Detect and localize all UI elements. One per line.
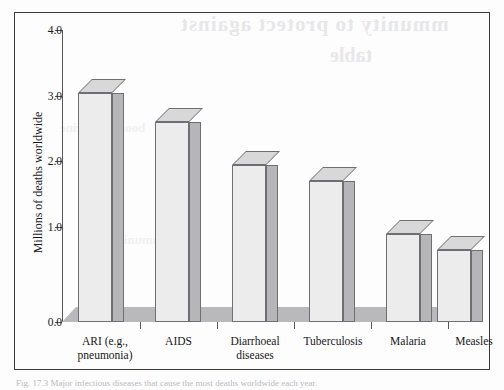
bar-malaria-front <box>386 234 420 322</box>
bar-measles <box>437 0 483 322</box>
bar-measles-front <box>437 250 471 322</box>
bar-chart-plot: 4.0 3.0 2.0 1.0 0.0 Millions of deaths w… <box>0 0 504 390</box>
x-tick-2 <box>217 322 218 329</box>
bar-measles-top <box>437 236 485 250</box>
bar-ari-side <box>112 93 124 322</box>
x-label-measles: Measles <box>443 334 504 348</box>
x-label-malaria: Malaria <box>369 334 447 348</box>
y-axis-title: Millions of deaths worldwide <box>31 83 46 283</box>
y-tick-label-4: 4.0 <box>20 24 62 36</box>
x-tick-3 <box>294 322 295 329</box>
bar-diarrhoeal-side <box>266 165 278 322</box>
bar-malaria-side <box>420 234 432 322</box>
x-label-tuberculosis: Tuberculosis <box>291 334 375 348</box>
bar-diarrhoeal <box>232 0 278 322</box>
bar-tuberculosis-front <box>309 181 343 322</box>
bar-diarrhoeal-top <box>232 151 280 165</box>
bar-tuberculosis-side <box>343 181 355 322</box>
bar-diarrhoeal-front <box>232 165 266 322</box>
x-label-diarrhoeal: Diarrhoeal diseases <box>214 334 296 362</box>
bar-aids-front <box>155 122 189 322</box>
x-label-ari: ARI (e.g., pneumonia) <box>62 334 148 362</box>
y-axis-line <box>62 30 63 322</box>
bar-tuberculosis-top <box>309 167 357 181</box>
x-tick-1 <box>140 322 141 329</box>
bar-aids-top <box>155 108 203 122</box>
x-tick-4 <box>371 322 372 329</box>
bar-aids <box>155 0 201 322</box>
figure-caption: Fig. 17.3 Major infectious diseases that… <box>16 378 496 389</box>
figure-stage: mmunity to protect against table booster… <box>0 0 504 390</box>
bar-measles-side <box>471 250 483 322</box>
bar-ari-top <box>78 79 126 93</box>
bar-malaria <box>386 0 432 322</box>
bar-malaria-top <box>386 220 434 234</box>
y-tick-label-0: 0.0 <box>20 316 62 328</box>
bar-aids-side <box>189 122 201 322</box>
x-label-aids: AIDS <box>140 334 217 348</box>
bar-ari-front <box>78 93 112 322</box>
bar-tuberculosis <box>309 0 355 322</box>
x-tick-5 <box>448 322 449 329</box>
bar-ari <box>78 0 124 322</box>
